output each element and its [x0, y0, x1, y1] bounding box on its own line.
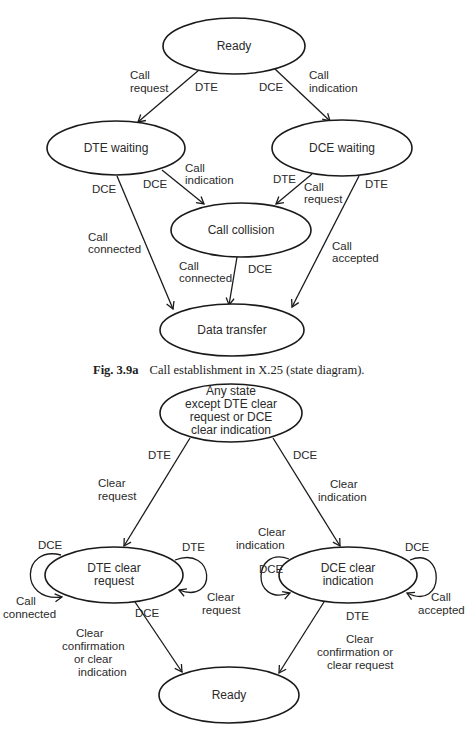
edge-label-event: or clear [74, 653, 113, 665]
state-ready-bottom: Ready [159, 667, 299, 723]
edge-label-event: Clear [98, 477, 126, 489]
edge-label-event: Call [179, 260, 199, 272]
edge-label-event: Call [88, 231, 108, 243]
state-label: clear indication [191, 423, 271, 437]
edge-label-actor: DCE [248, 263, 273, 275]
loop-label-event: indication [236, 539, 285, 551]
state-dce-waiting: DCE waiting [272, 120, 412, 176]
edge-label-event: Call [309, 69, 329, 81]
state-dte-waiting: DTE waiting [47, 121, 185, 175]
edge-label-actor: DTE [148, 449, 171, 461]
edge-label-event: Clear [76, 627, 104, 639]
edge-label-event: confirmation or [317, 646, 393, 658]
state-dte-clear-request: DTE clear request [45, 547, 183, 603]
state-dce-clear-indication: DCE clear indication [279, 547, 417, 603]
edge-label-actor: DTE [346, 610, 369, 622]
edge-label-event: accepted [332, 252, 379, 264]
edge-label-event: request [304, 193, 343, 205]
edge-label-event: Call [304, 181, 324, 193]
loop-label-event: Call [16, 595, 36, 607]
figure-caption: Fig. 3.9a Call establishment in X.25 (st… [93, 363, 365, 377]
edge-label-event: indication [318, 491, 367, 503]
edge-label-event: indication [309, 82, 358, 94]
edge-label-event: request [98, 490, 137, 502]
loop-label-event: Clear [207, 591, 235, 603]
edge-label-actor: DCE [293, 449, 318, 461]
caption-label: Fig. 3.9a [93, 363, 139, 377]
figure-a-call-establishment: Ready DTE waiting DCE waiting Call colli… [47, 18, 412, 377]
state-any-state: Any state except DTE clear request or DC… [160, 384, 302, 442]
state-label: Ready [212, 688, 247, 702]
caption-text: Call establishment in X.25 (state diagra… [150, 363, 365, 377]
state-label: except DTE clear [185, 397, 277, 411]
x25-state-diagrams: Ready DTE waiting DCE waiting Call colli… [0, 0, 472, 731]
loop-label-event: accepted [418, 604, 465, 616]
loop-label-actor: DTE [182, 541, 205, 553]
state-ready: Ready [163, 18, 305, 74]
loop-label-actor: DCE [259, 563, 284, 575]
state-label: Any state [206, 384, 256, 398]
edge-label-actor: DTE [365, 178, 388, 190]
edge-label-event: indication [78, 666, 127, 678]
edge-label-event: request [130, 82, 169, 94]
edge-label-event: Call [332, 240, 352, 252]
edge-label-event: Call [185, 162, 205, 174]
figure-b-call-clearing: Any state except DTE clear request or DC… [3, 384, 465, 723]
state-label: request or DCE [190, 410, 273, 424]
edge-label-event: Call [130, 69, 150, 81]
edge-label-actor: DCE [259, 81, 284, 93]
loop-label-event: Call [431, 591, 451, 603]
state-data-transfer: Data transfer [160, 304, 304, 356]
state-label: request [94, 574, 135, 588]
state-label: DTE waiting [84, 141, 149, 155]
edge-label-actor: DTE [273, 173, 296, 185]
state-call-collision: Call collision [171, 203, 311, 257]
state-label: Ready [217, 39, 252, 53]
edge-label-event: connected [179, 272, 232, 284]
state-label: DCE waiting [309, 141, 375, 155]
edge-label-actor: DCE [135, 607, 160, 619]
loop-label-event: connected [3, 608, 56, 620]
edge-label-actor: DCE [92, 183, 117, 195]
loop-label-event: request [202, 604, 241, 616]
loop-label-actor: DCE [405, 541, 430, 553]
edge-label-actor: DCE [143, 178, 168, 190]
loop-label-actor: DCE [38, 539, 63, 551]
state-label: DTE clear [87, 561, 140, 575]
edge-label-event: Clear [346, 633, 374, 645]
state-label: Call collision [208, 223, 275, 237]
edge-label-event: confirmation [62, 640, 125, 652]
state-label: indication [323, 574, 374, 588]
edge-dce-clear-to-ready [279, 602, 324, 673]
loop-label-event: Clear [258, 526, 286, 538]
edge-label-actor: DTE [195, 81, 218, 93]
edge-label-event: Clear [330, 478, 358, 490]
state-label: DCE clear [321, 561, 376, 575]
edge-label-event: clear request [327, 659, 394, 671]
state-label: Data transfer [197, 323, 266, 337]
edge-label-event: indication [185, 174, 234, 186]
edge-label-event: connected [88, 243, 141, 255]
